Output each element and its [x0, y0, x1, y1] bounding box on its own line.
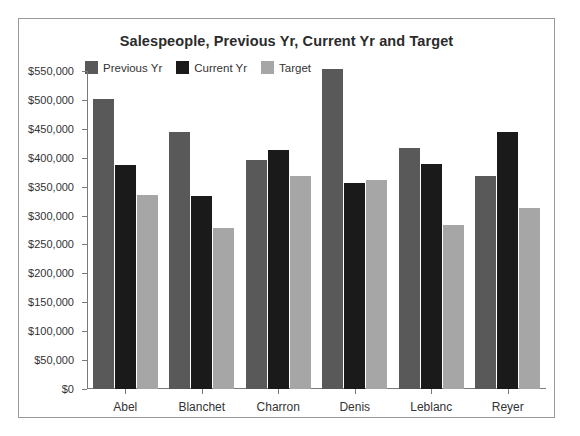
y-axis-label: $0: [62, 383, 74, 395]
bar[interactable]: [290, 176, 311, 389]
bar[interactable]: [169, 132, 190, 389]
y-axis-label: $350,000: [28, 181, 74, 193]
x-axis-tick: [202, 389, 203, 394]
x-axis-label: Reyer: [470, 400, 547, 414]
x-axis-label: Denis: [317, 400, 394, 414]
bar[interactable]: [246, 160, 267, 389]
bar-group: Abel: [87, 71, 164, 389]
bar-group: Leblanc: [393, 71, 470, 389]
bar[interactable]: [497, 132, 518, 389]
plot-area: $0$50,000$100,000$150,000$200,000$250,00…: [87, 71, 546, 389]
y-axis-label: $50,000: [34, 354, 74, 366]
x-axis-tick: [431, 389, 432, 394]
y-axis-label: $450,000: [28, 123, 74, 135]
y-axis-label: $500,000: [28, 94, 74, 106]
bar[interactable]: [93, 99, 114, 389]
bar[interactable]: [344, 183, 365, 389]
bar[interactable]: [322, 69, 343, 389]
x-axis-label: Abel: [87, 400, 164, 414]
x-axis-tick: [355, 389, 356, 394]
y-axis-label: $100,000: [28, 325, 74, 337]
bar-group: Charron: [240, 71, 317, 389]
bar-group: Reyer: [470, 71, 547, 389]
bar[interactable]: [268, 150, 289, 389]
y-axis-label: $300,000: [28, 210, 74, 222]
bar[interactable]: [366, 180, 387, 389]
bar[interactable]: [399, 148, 420, 389]
y-axis-tick: [82, 389, 87, 390]
bar[interactable]: [137, 195, 158, 389]
bar[interactable]: [421, 164, 442, 389]
y-axis-label: $400,000: [28, 152, 74, 164]
x-axis-tick: [278, 389, 279, 394]
bar[interactable]: [519, 208, 540, 389]
y-axis-label: $250,000: [28, 238, 74, 250]
bar[interactable]: [191, 196, 212, 389]
x-axis-label: Charron: [240, 400, 317, 414]
y-axis-label: $200,000: [28, 267, 74, 279]
x-axis-tick: [508, 389, 509, 394]
x-axis-tick: [125, 389, 126, 394]
bar[interactable]: [115, 165, 136, 389]
chart-title: Salespeople, Previous Yr, Current Yr and…: [19, 33, 554, 49]
bar[interactable]: [443, 225, 464, 389]
bar-group: Blanchet: [164, 71, 241, 389]
chart-container: Salespeople, Previous Yr, Current Yr and…: [18, 18, 555, 418]
bar-group: Denis: [317, 71, 394, 389]
x-axis-label: Leblanc: [393, 400, 470, 414]
y-axis-label: $550,000: [28, 65, 74, 77]
x-axis-label: Blanchet: [164, 400, 241, 414]
bar[interactable]: [213, 228, 234, 389]
bar[interactable]: [475, 176, 496, 389]
y-axis-label: $150,000: [28, 296, 74, 308]
